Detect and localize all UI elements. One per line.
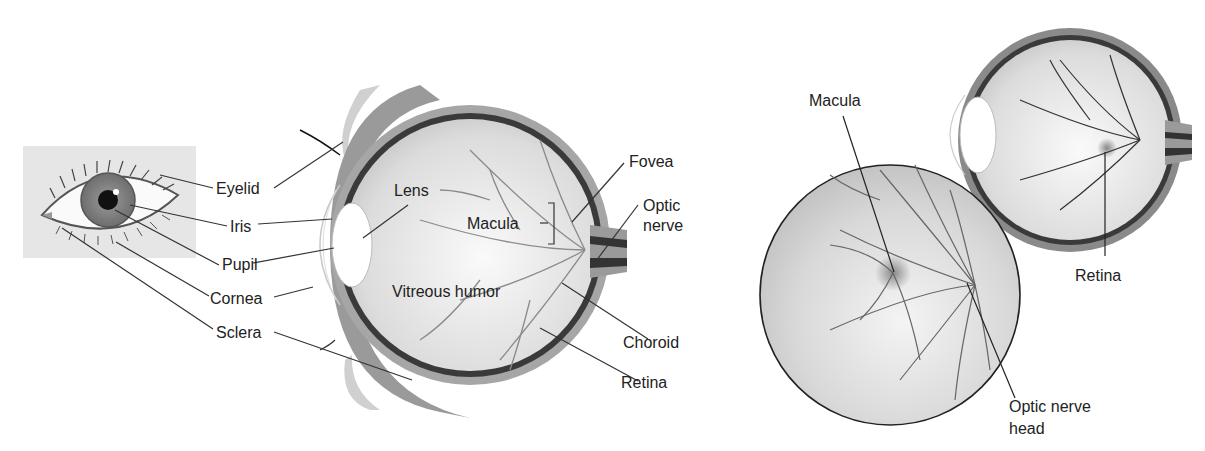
label-retina-cross-section: Retina (621, 374, 667, 392)
diagram-artwork (0, 0, 1205, 451)
fundus-and-globe-illustration (760, 28, 1192, 425)
label-optic-nerve-line2: nerve (643, 217, 683, 235)
eye-anatomy-diagram: Eyelid Iris Pupil Cornea Sclera Lens Mac… (0, 0, 1205, 451)
label-optic-nerve-line1: Optic (643, 197, 680, 215)
label-iris: Iris (230, 218, 251, 236)
label-macula-cross-section: Macula (467, 215, 519, 233)
label-vitreous-humor: Vitreous humor (392, 283, 500, 301)
label-optic-nerve-head-line2: head (1009, 420, 1045, 438)
label-macula-fundus: Macula (809, 92, 861, 110)
label-pupil: Pupil (222, 256, 258, 274)
label-fovea: Fovea (629, 153, 673, 171)
label-eyelid: Eyelid (216, 180, 260, 198)
label-lens: Lens (394, 182, 429, 200)
external-eye-illustration (23, 146, 196, 258)
eye-cross-section-illustration (300, 85, 627, 418)
label-cornea: Cornea (210, 290, 262, 308)
label-retina-fundus: Retina (1075, 267, 1121, 285)
label-sclera: Sclera (216, 324, 261, 342)
label-choroid: Choroid (623, 334, 679, 352)
label-optic-nerve-head-line1: Optic nerve (1009, 398, 1091, 416)
